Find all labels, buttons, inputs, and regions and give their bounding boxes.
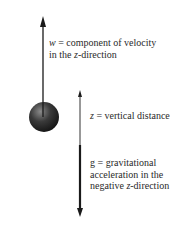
gravity-label-line3-pre: negative [90,180,126,191]
velocity-label-line2-rest: -direction [78,49,117,60]
gravity-label-line1: g = gravitational [90,157,169,169]
velocity-arrow [40,16,46,117]
gravity-label-line3-rest: -direction [130,180,169,191]
vertical-axis-arrow [77,90,83,217]
arrowhead-up-small-icon [78,90,82,97]
gravity-label-line2: acceleration in the [90,169,169,181]
velocity-label-line1: = component of velocity [56,37,157,48]
w-variable: w [49,37,56,48]
arrowhead-down-icon [77,208,83,217]
ball-sphere [29,102,59,132]
arrowhead-up-icon [40,16,46,27]
gravity-label: g = gravitational acceleration in the ne… [90,157,169,192]
distance-label-text: = vertical distance [94,110,170,121]
distance-label: z = vertical distance [90,110,170,122]
velocity-label: w = component of velocity in the z-direc… [49,37,156,60]
velocity-label-line2-pre: in the [49,49,74,60]
